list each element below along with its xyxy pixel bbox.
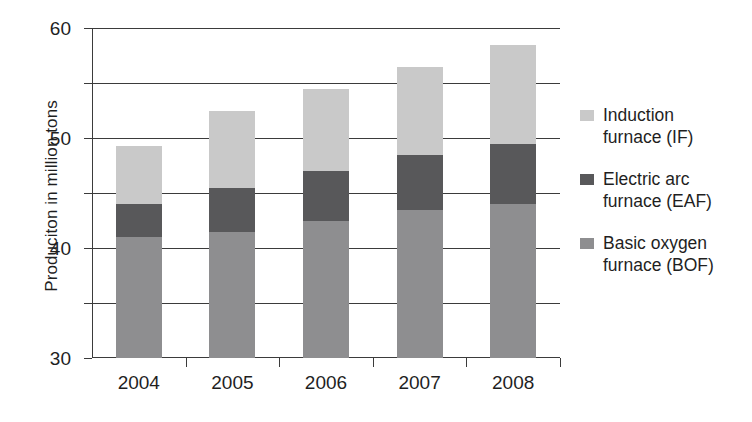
x-tick-label-2005: 2005 [186, 372, 280, 394]
legend-label-line1-0: Induction [603, 104, 752, 126]
legend-label-line1-2: Basic oxygen [603, 232, 752, 254]
y-tick-mark-50: 50 [84, 83, 92, 84]
chart-legend: Inductionfurnace (IF)Electric arcfurnace… [580, 104, 752, 296]
bar-group-2004[interactable] [116, 146, 162, 358]
bar-segment-if-2006[interactable] [303, 89, 349, 172]
bar-segment-bof-2005[interactable] [209, 232, 255, 359]
bar-segment-eaf-2008[interactable] [490, 144, 536, 205]
bar-group-2006[interactable] [303, 89, 349, 359]
bar-group-2008[interactable] [490, 45, 536, 359]
y-tick-label-30: 30 [50, 348, 71, 370]
bar-segment-eaf-2007[interactable] [397, 155, 443, 210]
x-tick-label-2008: 2008 [466, 372, 560, 394]
legend-swatch-induction-furnace [580, 110, 594, 121]
bar-segment-if-2005[interactable] [209, 111, 255, 188]
stacked-bar-chart: Produciton in million tons 0102030405060… [0, 0, 752, 422]
legend-item-1[interactable]: Electric arcfurnace (EAF) [580, 168, 752, 212]
bar-segment-if-2007[interactable] [397, 67, 443, 155]
legend-label-line1-1: Electric arc [603, 168, 752, 190]
x-tick-mark-5 [560, 358, 561, 367]
legend-swatch-electric-arc-furnace [580, 174, 594, 185]
y-tick-label-60: 60 [50, 18, 71, 40]
y-tick-mark-10: 10 [84, 303, 92, 304]
legend-item-0[interactable]: Inductionfurnace (IF) [580, 104, 752, 148]
bar-segment-if-2004[interactable] [116, 146, 162, 204]
y-tick-mark-30: 30 [84, 193, 92, 194]
legend-label-line2-2: furnace (BOF) [603, 254, 752, 276]
x-tick-mark-4 [466, 358, 467, 367]
legend-swatch-basic-oxygen-furnace [580, 238, 594, 249]
bar-segment-eaf-2005[interactable] [209, 188, 255, 232]
bar-segment-eaf-2004[interactable] [116, 204, 162, 237]
legend-label-line2-0: furnace (IF) [603, 126, 752, 148]
x-tick-label-2006: 2006 [279, 372, 373, 394]
y-tick-label-50: 50 [50, 128, 71, 150]
bar-segment-bof-2007[interactable] [397, 210, 443, 359]
bar-group-2007[interactable] [397, 67, 443, 359]
bar-segment-eaf-2006[interactable] [303, 171, 349, 221]
plot-area: 0102030405060 20042005200620072008 [92, 28, 560, 358]
x-tick-label-2007: 2007 [373, 372, 467, 394]
x-tick-label-2004: 2004 [92, 372, 186, 394]
x-tick-mark-1 [186, 358, 187, 367]
bar-segment-if-2008[interactable] [490, 45, 536, 144]
y-tick-mark-0: 0 [84, 358, 92, 359]
legend-item-2[interactable]: Basic oxygenfurnace (BOF) [580, 232, 752, 276]
bar-segment-bof-2008[interactable] [490, 204, 536, 358]
y-tick-mark-20: 20 [84, 248, 92, 249]
y-tick-mark-60: 60 [84, 28, 92, 29]
gridline-60 [92, 28, 560, 29]
x-tick-mark-2 [279, 358, 280, 367]
bar-segment-bof-2006[interactable] [303, 221, 349, 359]
y-tick-mark-40: 40 [84, 138, 92, 139]
legend-label-line2-1: furnace (EAF) [603, 190, 752, 212]
x-tick-mark-3 [373, 358, 374, 367]
bar-group-2005[interactable] [209, 111, 255, 359]
y-tick-label-40: 40 [50, 238, 71, 260]
y-axis-title: Produciton in million tons [42, 46, 62, 346]
bar-segment-bof-2004[interactable] [116, 237, 162, 358]
